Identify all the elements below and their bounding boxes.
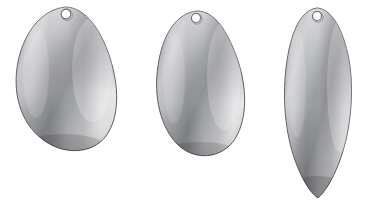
blade-shading-colorado [14,4,120,166]
blade-shading-indiana [155,8,251,170]
blade-willow-leaf[interactable] [280,4,358,208]
blade-indiana[interactable] [155,8,251,170]
blade-shading-willow [280,4,358,208]
blades-canvas [0,0,370,214]
spinner-blade-illustration [0,0,370,214]
blade-colorado[interactable] [14,4,120,166]
